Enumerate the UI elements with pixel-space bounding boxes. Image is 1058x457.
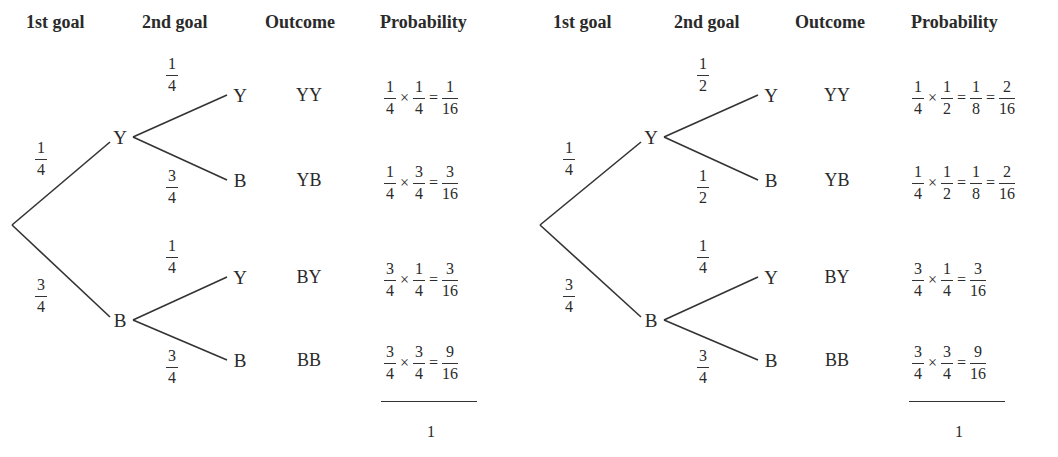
branch-line [12, 225, 110, 317]
branch-line [664, 320, 758, 360]
branch-line [664, 95, 758, 137]
branch-line [133, 277, 227, 320]
branch-line [133, 137, 227, 180]
branch-line [12, 142, 110, 225]
branch-line [540, 225, 641, 317]
branch-line [664, 277, 758, 320]
branch-line [540, 142, 641, 225]
tree-branches [0, 0, 1058, 457]
branch-line [664, 137, 758, 180]
branch-line [133, 95, 227, 137]
branch-line [133, 320, 227, 360]
